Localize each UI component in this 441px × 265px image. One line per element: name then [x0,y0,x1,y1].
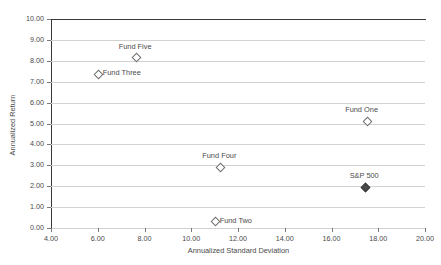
y-axis-tick-label: 5.00 [0,120,44,127]
x-axis-tick-label: 6.00 [78,235,118,242]
gridline-horizontal [51,82,425,83]
x-axis-tick [332,228,333,232]
y-axis-tick [47,103,51,104]
y-axis-tick-label: 10.00 [0,15,44,22]
x-axis-tick-label: 16.00 [312,235,352,242]
y-axis-tick-label: 2.00 [0,182,44,189]
x-axis-tick-label: 14.00 [265,235,305,242]
scatter-chart: Annualized Return Fund FiveFund ThreeFun… [0,0,441,265]
data-point-label: Fund Four [202,152,236,160]
gridline-horizontal [51,61,425,62]
y-axis-tick [47,82,51,83]
x-axis-tick-label: 18.00 [358,235,398,242]
data-point-marker [360,182,370,192]
y-axis-tick [47,40,51,41]
y-axis-tick [47,124,51,125]
y-axis-tick [47,19,51,20]
y-axis-tick-label: 0.00 [0,224,44,231]
y-axis-tick-label: 6.00 [0,99,44,106]
x-axis-tick-label: 4.00 [31,235,71,242]
data-point-label: Fund One [345,106,378,114]
y-axis-tick [47,144,51,145]
gridline-horizontal [51,144,425,145]
data-point-label: Fund Two [220,217,252,225]
x-axis-title: Annualized Standard Deviation [51,246,426,255]
y-axis-tick [47,207,51,208]
plot-area: Fund FiveFund ThreeFund OneFund FourS&P … [51,19,425,228]
y-axis-tick-label: 9.00 [0,36,44,43]
gridline-horizontal [51,207,425,208]
x-axis-tick [378,228,379,232]
data-point-marker [363,116,373,126]
gridline-horizontal [51,165,425,166]
y-axis-tick [47,165,51,166]
y-axis-tick-label: 1.00 [0,203,44,210]
y-axis-tick-label: 7.00 [0,78,44,85]
x-axis-tick-label: 12.00 [218,235,258,242]
x-axis-tick-label: 20.00 [405,235,441,242]
data-point-label: Fund Three [103,69,141,77]
y-axis-tick-label: 4.00 [0,140,44,147]
x-axis-tick [191,228,192,232]
x-axis-tick [98,228,99,232]
gridline-horizontal [51,103,425,104]
y-axis-tick-label: 3.00 [0,161,44,168]
x-axis-tick [425,228,426,232]
x-axis-tick [238,228,239,232]
data-point-marker [215,162,225,172]
data-point-label: Fund Five [119,43,152,51]
y-axis-tick [47,186,51,187]
y-axis-tick-label: 8.00 [0,57,44,64]
gridline-horizontal [51,40,425,41]
x-axis-tick-label: 8.00 [125,235,165,242]
y-axis-tick [47,61,51,62]
x-axis-tick [285,228,286,232]
data-point-label: S&P 500 [350,172,379,180]
x-axis-tick-label: 10.00 [171,235,211,242]
x-axis-tick [145,228,146,232]
x-axis-tick [51,228,52,232]
